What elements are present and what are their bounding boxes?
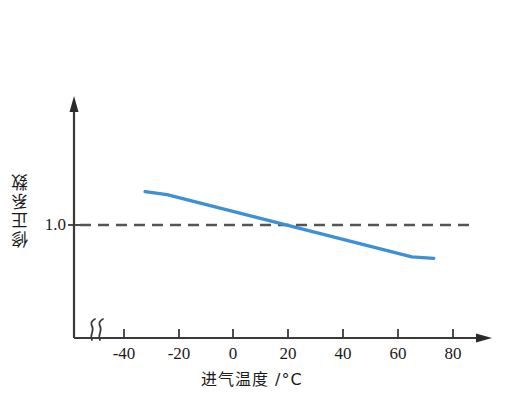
x-axis [74, 334, 492, 343]
x-axis-title: 进气温度 /°C [201, 366, 303, 390]
x-tick-label-0: 0 [213, 344, 253, 364]
chart-container: 1.0 修正系数 -40 -20 0 20 40 60 80 进气温度 /°C [0, 0, 505, 396]
y-tick-label-1.0: 1.0 [30, 215, 66, 235]
x-tick-label--40: -40 [99, 344, 149, 364]
x-axis-arrowhead [476, 334, 492, 343]
x-tick-label-80: 80 [433, 344, 473, 364]
x-tick-label-60: 60 [378, 344, 418, 364]
y-axis-arrowhead [70, 96, 79, 112]
x-tick-label-20: 20 [268, 344, 308, 364]
chart-canvas [0, 0, 505, 396]
x-tick-label-40: 40 [323, 344, 363, 364]
x-axis-ticks [124, 329, 453, 338]
y-axis [70, 96, 79, 338]
x-tick-label--20: -20 [154, 344, 204, 364]
y-axis-title: 修正系数 [12, 172, 29, 248]
axis-break-symbol [91, 319, 103, 340]
